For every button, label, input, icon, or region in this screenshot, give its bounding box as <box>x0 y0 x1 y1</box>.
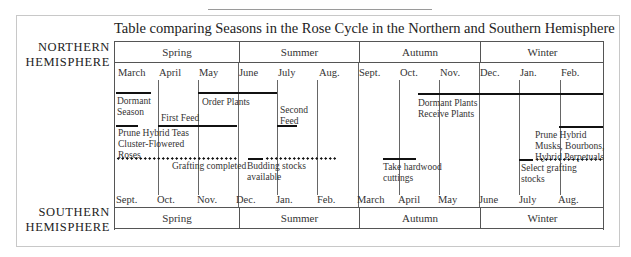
note-take-hardwood: Take hardwood cuttings <box>383 162 442 184</box>
north-month: March <box>118 67 145 78</box>
note-dormant-plants: Dormant Plants Receive Plants <box>418 98 477 120</box>
south-month: Feb. <box>317 194 335 205</box>
grid-line-sept <box>358 63 359 207</box>
north-month: Oct. <box>400 67 418 78</box>
figure-title: Table comparing Seasons in the Rose Cycl… <box>114 20 615 37</box>
north-month: Jan. <box>520 67 537 78</box>
decorative-rule <box>208 9 432 10</box>
south-month: May <box>438 194 457 205</box>
bar-first-feed <box>158 125 237 127</box>
southern-hemisphere-label: SOUTHERN HEMISPHERE <box>14 205 110 235</box>
bar-take-hardwood <box>383 158 416 160</box>
northern-hemisphere-label: NORTHERN HEMISPHERE <box>14 40 110 70</box>
north-month: Dec. <box>480 67 500 78</box>
south-month: Jan. <box>276 194 293 205</box>
grid-line-jan <box>519 80 520 195</box>
south-month: April <box>398 194 420 205</box>
grid-line-aug <box>317 80 318 195</box>
north-month: June <box>239 67 258 78</box>
north-month: May <box>199 67 218 78</box>
note-grafting-completed: Grafting completed <box>172 161 246 172</box>
north-month: Feb. <box>561 67 579 78</box>
southern-label-line2: HEMISPHERE <box>14 220 110 235</box>
south-month: Nov. <box>197 194 217 205</box>
note-order-plants: Order Plants <box>202 97 250 108</box>
note-second-feed: Second Feed <box>280 105 308 127</box>
bar-prune-hybrid-teas <box>116 125 138 127</box>
south-month: Dec. <box>236 194 256 205</box>
grid-line-june <box>238 63 239 207</box>
north-month: Sept. <box>359 67 380 78</box>
northern-label-line1: NORTHERN <box>14 40 110 55</box>
note-select-grafting: Select grafting stocks <box>521 163 577 185</box>
south-month: June <box>479 194 498 205</box>
southern-season-autumn: Autumn <box>359 208 480 228</box>
north-month: Nov. <box>440 67 460 78</box>
grid-line-dec <box>479 63 480 207</box>
bar-budding-stocks <box>248 158 263 160</box>
southern-season-spring: Spring <box>115 208 239 228</box>
note-prune-hybrid-musks: Prune Hybrid Musks, Bourbons, Hybrid Per… <box>535 130 604 163</box>
south-month: March <box>357 194 384 205</box>
north-month: Aug. <box>319 67 340 78</box>
southern-season-winter: Winter <box>480 208 604 228</box>
note-prune-hybrid-teas: Prune Hybrid Teas Cluster-Flowered Roses <box>118 128 189 161</box>
south-month: Aug. <box>558 194 579 205</box>
southern-season-summer: Summer <box>239 208 359 228</box>
northern-season-summer: Summer <box>239 42 359 62</box>
southern-label-line1: SOUTHERN <box>14 205 110 220</box>
northern-season-spring: Spring <box>115 42 239 62</box>
south-month: July <box>519 194 537 205</box>
northern-label-line2: HEMISPHERE <box>14 55 110 70</box>
grid-line-may <box>198 80 199 195</box>
bar-dormant-plants <box>418 93 603 95</box>
bar-prune-hybrid-musks <box>559 126 603 128</box>
north-month: April <box>159 67 181 78</box>
bar-dormant-season <box>116 92 151 94</box>
note-dormant-season: Dormant Season <box>117 96 151 118</box>
bar-order-plants <box>198 92 277 94</box>
south-month: Oct. <box>157 194 175 205</box>
south-month: Sept. <box>116 194 137 205</box>
dotted-budding <box>265 157 336 160</box>
table-left-border <box>114 41 115 230</box>
note-first-feed: First Feed <box>161 113 199 124</box>
northern-season-autumn: Autumn <box>359 42 480 62</box>
north-month: July <box>278 67 296 78</box>
northern-season-row: Spring Summer Autumn Winter <box>114 41 604 63</box>
note-budding-stocks: Budding stocks available <box>247 161 306 183</box>
bar-select-grafting <box>519 159 533 161</box>
northern-season-winter: Winter <box>480 42 604 62</box>
southern-season-row: Spring Summer Autumn Winter <box>114 207 604 229</box>
